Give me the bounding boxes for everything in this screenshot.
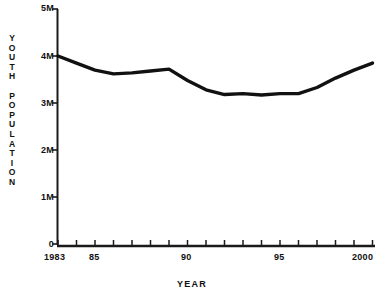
series-line-youth-population bbox=[58, 56, 373, 95]
line-chart: Y O U T H P O P U L A T I O N 5M 4M 3M 2… bbox=[0, 0, 384, 304]
plot-area bbox=[0, 0, 384, 304]
